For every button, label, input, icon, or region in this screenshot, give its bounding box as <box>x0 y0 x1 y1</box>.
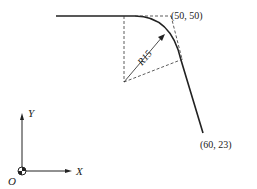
x-axis-arrow-icon <box>65 169 72 173</box>
diagram-svg: R15 (50, 50) (60, 23) Y X O <box>0 0 257 189</box>
point-top-label: (50, 50) <box>171 10 203 22</box>
origin-label: O <box>8 175 16 187</box>
x-axis-label: X <box>75 165 84 177</box>
cnc-arc-diagram: R15 (50, 50) (60, 23) Y X O <box>0 0 257 189</box>
y-axis-label: Y <box>28 107 36 119</box>
radius-arrowhead <box>158 34 165 41</box>
radius-label: R15 <box>134 48 153 68</box>
y-axis-arrow-icon <box>20 113 24 120</box>
contour-path <box>56 16 203 133</box>
origin-icon <box>18 167 26 175</box>
point-bottom-label: (60, 23) <box>200 139 232 151</box>
